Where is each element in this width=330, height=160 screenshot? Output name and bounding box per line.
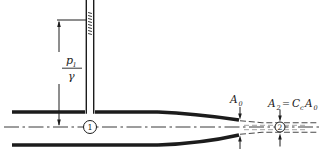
station-2-marker: 2 xyxy=(275,122,285,132)
station-1-marker: 1 xyxy=(84,121,97,134)
diagram-canvas: p1 γ A0 1 2 A2=CcA0 xyxy=(0,0,330,160)
station-2-number: 2 xyxy=(278,123,283,132)
station-1-number: 1 xyxy=(87,123,92,132)
pressure-head-denominator: γ xyxy=(68,70,75,83)
figure-container: p1 γ A0 1 2 A2=CcA0 xyxy=(0,0,330,160)
